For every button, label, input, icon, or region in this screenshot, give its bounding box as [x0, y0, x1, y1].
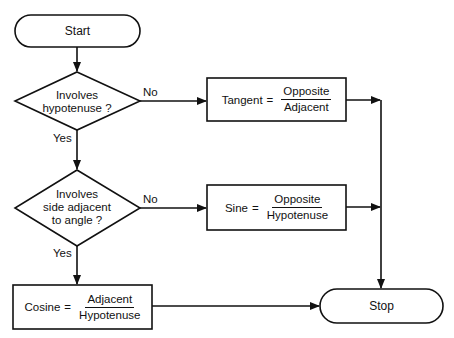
tangent-equals: =	[267, 94, 274, 106]
sine-denominator: Hypotenuse	[267, 208, 328, 222]
cosine-equals: =	[64, 301, 71, 313]
decision-adjacent-line2: side adjacent	[27, 201, 127, 214]
sine-numerator: Opposite	[272, 193, 322, 208]
tangent-numerator: Opposite	[281, 85, 331, 100]
start-node: Start	[15, 15, 140, 47]
sine-equals: =	[252, 202, 259, 214]
tangent-name: Tangent	[222, 94, 263, 106]
decision-adjacent-line1: Involves	[27, 188, 127, 201]
decision-adjacent: Involves side adjacent to angle ?	[27, 188, 127, 227]
stop-label: Stop	[369, 299, 394, 313]
edge-label-d1-yes: Yes	[53, 132, 72, 144]
tangent-node: Tangent = Opposite Adjacent	[207, 78, 346, 121]
cosine-fraction: Adjacent Hypotenuse	[79, 293, 140, 322]
cosine-numerator: Adjacent	[85, 293, 134, 308]
tangent-fraction: Opposite Adjacent	[281, 85, 331, 114]
edge-label-d1-no: No	[143, 86, 158, 98]
tangent-denominator: Adjacent	[284, 100, 329, 114]
cosine-name: Cosine	[25, 301, 61, 313]
decision-adjacent-line3: to angle ?	[27, 214, 127, 227]
sine-fraction: Opposite Hypotenuse	[267, 193, 328, 222]
decision-hypotenuse-line2: hypotenuse ?	[27, 102, 127, 115]
cosine-node: Cosine = Adjacent Hypotenuse	[13, 285, 152, 329]
decision-hypotenuse: Involves hypotenuse ?	[27, 89, 127, 115]
cosine-denominator: Hypotenuse	[79, 308, 140, 322]
decision-hypotenuse-line1: Involves	[27, 89, 127, 102]
edge-label-d2-yes: Yes	[53, 247, 72, 259]
sine-name: Sine	[225, 202, 248, 214]
start-label: Start	[65, 24, 90, 38]
edge-label-d2-no: No	[143, 193, 158, 205]
stop-node: Stop	[320, 289, 443, 323]
sine-node: Sine = Opposite Hypotenuse	[207, 185, 346, 230]
